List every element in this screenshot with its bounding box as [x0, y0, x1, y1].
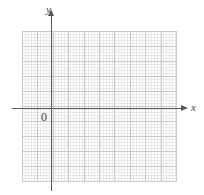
origin-label: 0	[41, 111, 47, 123]
x-axis-label: x	[191, 102, 196, 113]
x-axis-arrow-icon	[181, 105, 188, 111]
y-axis-line	[51, 15, 53, 191]
grid-major-lines	[22, 31, 177, 182]
coordinate-plane-figure: y x 0	[0, 0, 204, 195]
x-axis-line	[12, 108, 182, 110]
y-axis-label: y	[46, 4, 51, 15]
